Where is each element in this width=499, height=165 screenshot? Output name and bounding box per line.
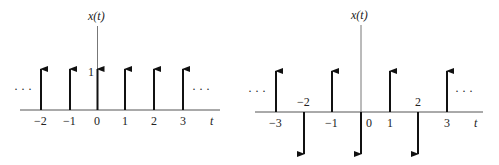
right-y-label: x(t) xyxy=(350,8,368,22)
tick-label: 1 xyxy=(387,116,393,130)
right-ellipsis: · · · xyxy=(192,82,210,96)
tick-label: −2 xyxy=(34,114,47,128)
figure-canvas: x(t) t 1 · · · · · · −2 −1 0 1 2 3 x(t) … xyxy=(0,0,499,165)
right-impulse-train: x(t) t · · · · · · −3 −2 −1 0 1 2 3 xyxy=(248,8,483,154)
left-y-label: x(t) xyxy=(87,9,105,23)
left-ellipsis: · · · xyxy=(248,84,266,98)
left-tick-labels: −2 −1 0 1 2 3 xyxy=(34,114,186,128)
tick-label: 0 xyxy=(94,114,100,128)
left-ellipsis: · · · xyxy=(14,82,32,96)
tick-label: 2 xyxy=(151,114,157,128)
tick-label: 1 xyxy=(122,114,128,128)
tick-label: −1 xyxy=(63,114,76,128)
tick-label: 2 xyxy=(415,95,421,109)
tick-label: −2 xyxy=(297,95,310,109)
tick-label: 3 xyxy=(444,116,450,130)
left-impulses xyxy=(41,69,183,110)
left-amplitude-label: 1 xyxy=(88,65,94,79)
tick-label: 0 xyxy=(366,116,372,130)
tick-label: 3 xyxy=(180,114,186,128)
right-x-label: t xyxy=(474,116,478,130)
right-ellipsis: · · · xyxy=(455,84,473,98)
tick-label: −1 xyxy=(325,116,338,130)
tick-label: −3 xyxy=(269,116,282,130)
left-x-label: t xyxy=(210,114,214,128)
left-impulse-train: x(t) t 1 · · · · · · −2 −1 0 1 2 3 xyxy=(14,9,220,128)
